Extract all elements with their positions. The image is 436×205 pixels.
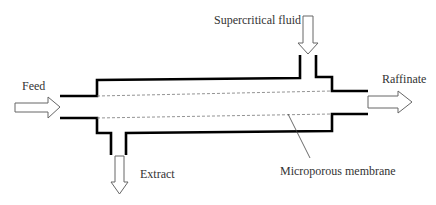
- raffinate-label: Raffinate: [382, 72, 426, 86]
- supercritical-fluid-label: Supercritical fluid: [214, 13, 301, 27]
- extract-arrow-icon: [111, 156, 128, 194]
- supercritical-fluid-arrow-icon: [298, 16, 318, 54]
- shell-top-wall: [60, 55, 300, 96]
- raffinate-arrow-icon: [368, 91, 412, 113]
- membrane-contactor-diagram: Feed Supercritical fluid Raffinate Extra…: [0, 0, 436, 205]
- feed-label: Feed: [22, 79, 45, 93]
- membrane-lower-line: [97, 114, 332, 118]
- shell-bottom-right-wall: [126, 114, 368, 155]
- membrane-leader-line: [288, 114, 310, 158]
- membrane-label: Microporous membrane: [280, 164, 396, 178]
- shell-bottom-wall: [60, 118, 111, 155]
- membrane-upper-line: [97, 91, 332, 96]
- shell-top-right-wall: [316, 55, 368, 91]
- feed-arrow-icon: [15, 97, 60, 118]
- extract-label: Extract: [140, 167, 175, 181]
